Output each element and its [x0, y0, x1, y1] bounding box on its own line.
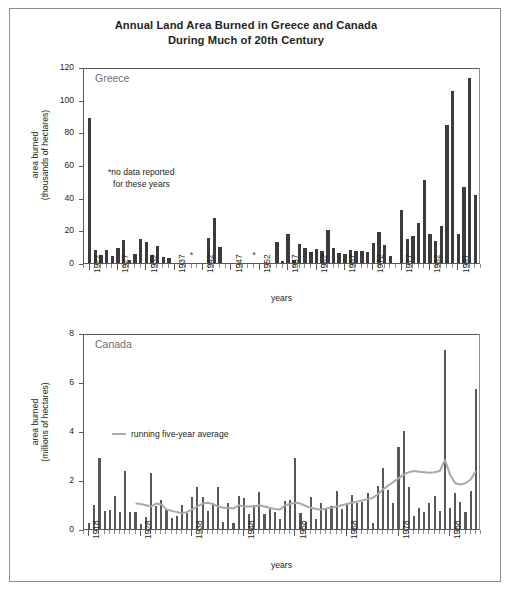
y-tick-mark — [79, 383, 83, 384]
x-tick-mark-minor — [258, 530, 259, 534]
x-tick-mark-major — [398, 530, 399, 536]
x-tick-mark-minor — [465, 530, 466, 534]
x-tick-label: 1938 — [194, 520, 204, 539]
x-tick-mark-minor — [104, 530, 105, 534]
x-tick-mark-minor — [413, 530, 414, 534]
x-tick-label: 1978 — [401, 520, 411, 539]
x-tick-mark-minor — [238, 530, 239, 534]
legend-label: running five-year average — [131, 429, 228, 439]
x-tick-mark-minor — [387, 530, 388, 534]
x-tick-mark-minor — [263, 530, 264, 534]
running-average-polyline — [136, 460, 476, 513]
x-tick-mark-minor — [289, 530, 290, 534]
x-tick-mark-major — [243, 530, 244, 536]
x-tick-mark-minor — [279, 530, 280, 534]
canada-panel-label: Canada — [95, 338, 132, 350]
x-tick-mark-minor — [367, 530, 368, 534]
x-tick-label: 1968 — [349, 520, 359, 539]
x-tick-mark-minor — [434, 530, 435, 534]
x-tick-mark-minor — [217, 530, 218, 534]
x-tick-mark-minor — [176, 530, 177, 534]
x-tick-label: 1988 — [452, 520, 462, 539]
x-tick-mark-major — [346, 530, 347, 536]
y-tick-mark — [79, 481, 83, 482]
x-tick-mark-minor — [361, 530, 362, 534]
x-tick-mark-minor — [207, 530, 208, 534]
y-tick-label: 8 — [48, 328, 74, 338]
x-tick-label: 1948 — [246, 520, 256, 539]
x-tick-mark-minor — [160, 530, 161, 534]
x-tick-mark-major — [294, 530, 295, 536]
x-tick-mark-minor — [377, 530, 378, 534]
canada-y-axis-title: area burned (millions of hectares) — [30, 347, 50, 497]
x-tick-mark-minor — [372, 530, 373, 534]
y-tick-mark — [79, 334, 83, 335]
x-tick-mark-minor — [439, 530, 440, 534]
y-tick-mark — [79, 432, 83, 433]
x-tick-mark-minor — [165, 530, 166, 534]
canada-legend: running five-year average — [112, 429, 228, 439]
x-tick-mark-minor — [222, 530, 223, 534]
x-tick-mark-minor — [418, 530, 419, 534]
x-tick-mark-minor — [83, 530, 84, 534]
x-tick-mark-minor — [284, 530, 285, 534]
x-tick-mark-minor — [392, 530, 393, 534]
x-tick-label: 1958 — [298, 520, 308, 539]
x-tick-mark-minor — [109, 530, 110, 534]
x-tick-mark-minor — [325, 530, 326, 534]
chart-page: Annual Land Area Burned in Greece and Ca… — [0, 0, 510, 591]
x-tick-mark-minor — [212, 530, 213, 534]
canada-x-axis-title: years — [83, 560, 480, 570]
x-tick-mark-major — [449, 530, 450, 536]
canada-y-axis-title-line1: area burned — [30, 399, 40, 445]
canada-panel: area burned (millions of hectares) Canad… — [0, 0, 510, 591]
x-tick-mark-minor — [269, 530, 270, 534]
x-tick-mark-minor — [330, 530, 331, 534]
x-tick-mark-minor — [274, 530, 275, 534]
x-tick-mark-minor — [227, 530, 228, 534]
x-tick-mark-minor — [114, 530, 115, 534]
x-tick-mark-minor — [186, 530, 187, 534]
x-tick-mark-minor — [119, 530, 120, 534]
x-tick-mark-minor — [135, 530, 136, 534]
x-tick-mark-minor — [233, 530, 234, 534]
x-tick-label: 1918 — [91, 520, 101, 539]
legend-line-swatch — [112, 433, 126, 435]
x-tick-mark-minor — [444, 530, 445, 534]
x-tick-label: 1928 — [143, 520, 153, 539]
x-tick-mark-minor — [341, 530, 342, 534]
x-tick-mark-major — [88, 530, 89, 536]
x-tick-mark-minor — [320, 530, 321, 534]
x-tick-mark-minor — [129, 530, 130, 534]
x-tick-mark-minor — [310, 530, 311, 534]
x-tick-mark-minor — [423, 530, 424, 534]
y-tick-label: 6 — [48, 377, 74, 387]
y-tick-label: 0 — [48, 524, 74, 534]
y-tick-label: 2 — [48, 475, 74, 485]
x-tick-mark-minor — [315, 530, 316, 534]
x-tick-mark-minor — [155, 530, 156, 534]
x-tick-mark-minor — [382, 530, 383, 534]
x-tick-mark-major — [140, 530, 141, 536]
x-tick-mark-minor — [475, 530, 476, 534]
x-tick-mark-minor — [480, 530, 481, 534]
x-tick-mark-minor — [428, 530, 429, 534]
y-tick-label: 4 — [48, 426, 74, 436]
x-tick-mark-minor — [171, 530, 172, 534]
x-tick-mark-minor — [181, 530, 182, 534]
x-tick-mark-minor — [336, 530, 337, 534]
x-tick-mark-minor — [124, 530, 125, 534]
x-tick-mark-major — [191, 530, 192, 536]
x-tick-mark-minor — [470, 530, 471, 534]
